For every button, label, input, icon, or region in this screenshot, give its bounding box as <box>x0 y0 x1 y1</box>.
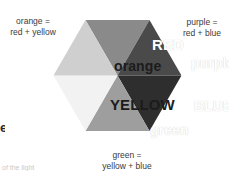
color-wheel-figure: RED purple BLUE green YELLOW orange oran… <box>0 0 229 174</box>
annotation-purple-line2: red + blue <box>176 28 228 39</box>
cropped-text-faint: of the light <box>2 164 74 171</box>
annotation-purple: purple = red + blue <box>176 17 228 40</box>
wedge-label-orange: orange <box>114 59 161 73</box>
wedge-label-purple: purple <box>191 56 229 70</box>
color-wheel: RED purple BLUE green YELLOW orange <box>53 11 182 140</box>
annotation-orange-line1: orange = <box>3 16 63 27</box>
annotation-green: green = yellow + blue <box>96 150 158 173</box>
annotation-orange: orange = red + yellow <box>3 16 63 39</box>
annotation-green-line1: green = <box>96 150 158 161</box>
cropped-text-glyph: e <box>0 121 5 135</box>
annotation-orange-line2: red + yellow <box>3 27 63 38</box>
color-wheel-svg <box>53 11 182 140</box>
annotation-purple-line1: purple = <box>176 17 228 28</box>
annotation-green-line2: yellow + blue <box>96 161 158 172</box>
wedge-label-blue: BLUE <box>194 99 229 113</box>
wedge-label-yellow: YELLOW <box>110 97 175 112</box>
wedge-label-green: green <box>150 123 189 137</box>
